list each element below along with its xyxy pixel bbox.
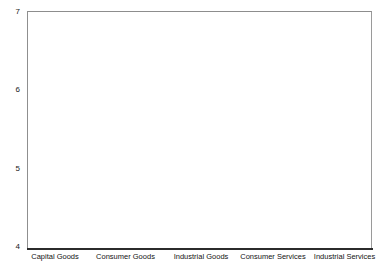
x-axis-label-industrial-services: Industrial Services bbox=[309, 252, 380, 262]
x-axis-labels: Capital Goods Consumer Goods Industrial … bbox=[0, 252, 385, 270]
x-axis-baseline bbox=[27, 248, 373, 250]
x-axis-label-consumer-services: Consumer Services bbox=[239, 252, 307, 262]
bars-layer: 4.8367 4.7948 4.7103 5.1788 5.1444 bbox=[0, 0, 385, 249]
x-axis-label-industrial-goods: Industrial Goods bbox=[169, 252, 233, 262]
x-axis-label-consumer-goods: Consumer Goods bbox=[95, 252, 156, 262]
bar-chart: 7 6 5 4 4.8367 4.7948 4.7103 5.1788 5.14… bbox=[0, 0, 385, 272]
x-axis-label-capital-goods: Capital Goods bbox=[26, 252, 84, 262]
